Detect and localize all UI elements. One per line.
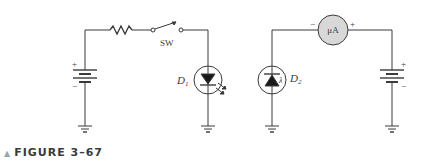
triangle-marker-icon: ▲ [4, 149, 11, 158]
meter-plus: + [350, 19, 355, 29]
meter-label: μA [327, 25, 339, 35]
figure-caption: ▲FIGURE 3–67 [4, 146, 103, 159]
caption-text: FIGURE 3–67 [14, 146, 103, 159]
circuit-diagram: + − SW D1 − + μA λ D2 + − [0, 0, 424, 162]
resistor-icon [110, 26, 132, 34]
ground-icon [78, 126, 92, 132]
switch-label: SW [160, 38, 174, 48]
meter-minus: − [310, 19, 315, 29]
left-circuit [73, 22, 226, 132]
ground-icon [201, 126, 215, 132]
led-label: D1 [176, 74, 188, 88]
ground-icon [265, 126, 279, 132]
switch-icon [151, 22, 183, 32]
left-battery-plus: + [72, 59, 77, 69]
ground-icon [385, 126, 399, 132]
lambda-label: λ [278, 76, 283, 85]
photodiode-label: D2 [289, 72, 302, 86]
led-icon [194, 66, 226, 94]
right-battery-plus: + [401, 59, 406, 69]
right-battery-minus: − [401, 81, 406, 91]
left-battery-minus: − [72, 81, 77, 91]
